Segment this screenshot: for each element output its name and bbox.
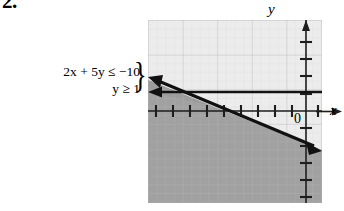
- problem-number: 2.: [2, 0, 17, 12]
- y-axis-label: y: [268, 2, 275, 17]
- origin-label: 0: [294, 112, 301, 126]
- inequality-second: y ≥ 1: [18, 80, 140, 97]
- inequality-first: 2x + 5y ≤ −10: [18, 63, 140, 80]
- figure-root: 2. 2x + 5y ≤ −10 y ≥ 1 }: [0, 0, 344, 211]
- x-axis-label: x: [330, 103, 337, 118]
- grouping-brace: }: [134, 58, 147, 93]
- system-of-inequalities-label: 2x + 5y ≤ −10 y ≥ 1: [18, 63, 140, 97]
